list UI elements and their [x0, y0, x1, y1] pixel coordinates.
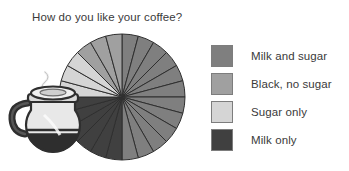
pie-chart-area	[0, 22, 200, 171]
legend-swatch-icon	[211, 101, 233, 123]
legend-swatch-icon	[211, 45, 233, 67]
carafe-body	[26, 101, 80, 152]
carafe-lid	[28, 87, 78, 103]
legend-item-label: Sugar only	[251, 106, 307, 118]
coffee-preference-pie-figure: How do you like your coffee?	[0, 0, 349, 171]
coffee-pot-illustration	[0, 22, 200, 171]
legend-item: Milk and sugar	[211, 42, 349, 70]
legend-item-label: Milk only	[251, 134, 297, 146]
legend-item-label: Black, no sugar	[251, 78, 332, 90]
legend-item-label: Milk and sugar	[251, 50, 327, 62]
legend-swatch-icon	[211, 129, 233, 151]
legend-item: Milk only	[211, 126, 349, 154]
legend: Milk and sugar Black, no sugar Sugar onl…	[211, 42, 349, 154]
legend-swatch-icon	[211, 73, 233, 95]
legend-item: Black, no sugar	[211, 70, 349, 98]
legend-item: Sugar only	[211, 98, 349, 126]
